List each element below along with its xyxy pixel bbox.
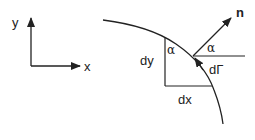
alpha-triangle-label: α (167, 43, 175, 57)
d-gamma-label: dΓ (209, 62, 223, 77)
normal-label: n (236, 5, 244, 20)
normal-vector-group: n α (193, 5, 245, 56)
d-gamma-arrow (195, 58, 203, 70)
dy-label: dy (140, 53, 154, 68)
dx-label: dx (178, 92, 192, 107)
x-axis-label: x (84, 59, 91, 74)
y-axis-label: y (12, 15, 19, 30)
coordinate-axes: y x (12, 15, 91, 74)
alpha-normal-label: α (207, 41, 215, 55)
d-gamma-group: dΓ (195, 58, 223, 77)
boundary-normal-diagram: y x dy dx α n α dΓ (0, 0, 255, 140)
boundary-curve (103, 20, 223, 124)
